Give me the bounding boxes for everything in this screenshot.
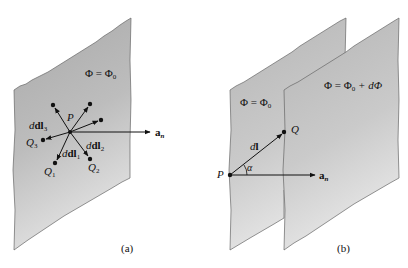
point-P-label-b: P bbox=[217, 169, 224, 180]
potential-label-a: Φ = Φ0 bbox=[85, 68, 116, 81]
potential-label-b-front: Φ = Φ0 + dΦ bbox=[324, 80, 382, 93]
dl2-label: ddl2 bbox=[86, 140, 104, 153]
potential-label-b-back: Φ = Φ0 bbox=[240, 97, 271, 110]
Q1-label: Q1 bbox=[44, 166, 55, 179]
normal-vector-label-a: an bbox=[155, 127, 164, 140]
caption-a: (a) bbox=[121, 243, 133, 254]
dl3-label: ddl3 bbox=[29, 120, 47, 133]
normal-vector-label-b: an bbox=[319, 170, 328, 183]
dl1-label: ddl1 bbox=[62, 148, 80, 161]
dl-label-b: dl bbox=[250, 141, 259, 152]
point-P-label-a: P bbox=[67, 112, 74, 123]
equipotential-diagram bbox=[0, 0, 408, 268]
Q3-label: Q3 bbox=[26, 137, 37, 150]
point-Q-label-b: Q bbox=[291, 124, 299, 135]
caption-b: (b) bbox=[337, 243, 350, 254]
angle-alpha-label: α bbox=[247, 163, 252, 173]
Q2-label: Q2 bbox=[88, 162, 99, 175]
